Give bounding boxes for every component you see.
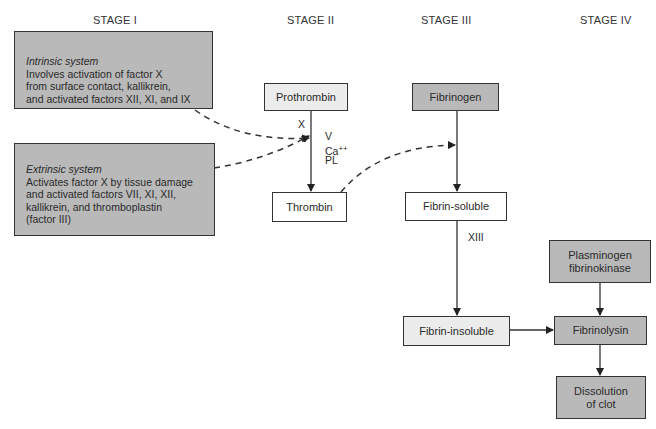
dissolution-label: Dissolution	[574, 385, 628, 398]
thrombin-box: Thrombin	[272, 192, 347, 222]
intrinsic-line-3: and activated factors XII, XI, and IX	[26, 93, 191, 106]
fibrin-soluble-box: Fibrin-soluble	[405, 192, 507, 221]
fibrin-soluble-label: Fibrin-soluble	[423, 200, 489, 213]
fibrin-insoluble-label: Fibrin-insoluble	[419, 325, 494, 338]
dissolution-of-clot-box: Dissolution of clot	[556, 376, 646, 419]
extrinsic-line-1: Activates factor X by tissue damage	[26, 176, 193, 189]
extrinsic-system-box: Extrinsic system Activates factor X by t…	[14, 143, 215, 236]
of-clot-label: of clot	[574, 398, 628, 411]
extrinsic-line-3: kallikrein, and thromboplastin	[26, 201, 193, 214]
prothrombin-label: Prothrombin	[276, 91, 336, 104]
plasminogen-fibrinokinase-box: Plasminogen fibrinokinase	[549, 240, 651, 283]
cofactor-pl-label: PL	[325, 155, 338, 166]
cofactor-ca-superscript: ++	[338, 144, 347, 153]
factor-xiii-label: XIII	[468, 232, 484, 243]
dashed-arrow-thrombin-to-fibrinogen	[341, 145, 455, 192]
intrinsic-line-2: from surface contact, kallikrein,	[26, 80, 191, 93]
extrinsic-system-title: Extrinsic system	[26, 163, 193, 176]
intrinsic-system-box: Intrinsic system Involves activation of …	[14, 31, 213, 109]
dashed-arrow-intrinsic-to-factor-x	[195, 110, 309, 138]
intrinsic-line-1: Involves activation of factor X	[26, 68, 191, 81]
fibrinogen-label: Fibrinogen	[430, 91, 482, 104]
fibrinokinase-label: fibrinokinase	[568, 262, 632, 275]
prothrombin-box: Prothrombin	[264, 83, 348, 111]
intrinsic-system-title: Intrinsic system	[26, 55, 191, 68]
dashed-arrow-extrinsic-to-factor-x	[214, 136, 309, 168]
thrombin-label: Thrombin	[286, 201, 332, 214]
factor-x-label: X	[298, 119, 305, 130]
extrinsic-line-4: (factor III)	[26, 213, 193, 226]
plasminogen-label: Plasminogen	[568, 249, 632, 262]
extrinsic-line-2: and activated factors VII, XI, XII,	[26, 188, 193, 201]
cofactor-v-label: V	[325, 131, 332, 142]
fibrinolysin-label: Fibrinolysin	[573, 324, 629, 337]
fibrinolysin-box: Fibrinolysin	[554, 316, 647, 345]
fibrin-insoluble-box: Fibrin-insoluble	[403, 316, 510, 346]
fibrinogen-box: Fibrinogen	[412, 83, 499, 111]
